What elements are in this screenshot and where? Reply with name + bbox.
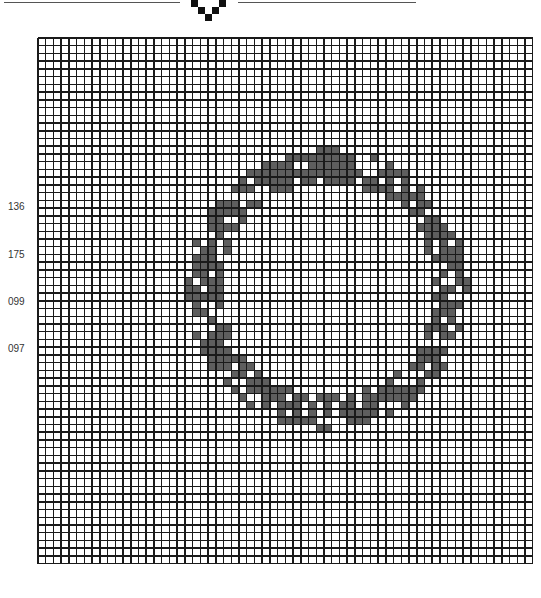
grid-line-horizontal — [38, 207, 533, 209]
grid-line-horizontal — [38, 393, 533, 395]
grid-line-horizontal — [38, 169, 533, 171]
grid-line-horizontal — [38, 107, 533, 109]
grid-line-horizontal — [38, 517, 533, 519]
grid-line-horizontal — [38, 547, 533, 549]
grid-line-horizontal — [38, 76, 533, 78]
grid-line-horizontal — [38, 509, 533, 511]
grid-line-horizontal — [38, 269, 533, 271]
grid-line-horizontal — [38, 470, 533, 472]
grid-line-horizontal — [38, 200, 533, 202]
grid-line-horizontal — [38, 370, 533, 372]
grid-line-horizontal — [38, 316, 533, 318]
grid-line-horizontal — [38, 462, 533, 464]
grid-line-horizontal — [38, 161, 533, 163]
grid-line-horizontal — [38, 145, 533, 147]
grid-line-horizontal — [38, 401, 533, 403]
grid-line-horizontal — [38, 501, 533, 503]
grid-line-horizontal — [38, 524, 533, 526]
grid-line-horizontal — [38, 122, 533, 124]
legend-code-097: 097 — [8, 343, 25, 354]
legend-code-099: 099 — [8, 296, 25, 307]
grid-line-horizontal — [38, 246, 533, 248]
grid-line-horizontal — [38, 91, 533, 93]
grid-line-horizontal — [38, 431, 533, 433]
grid-line-horizontal — [38, 37, 533, 39]
grid-line-horizontal — [38, 130, 533, 132]
grid-line-horizontal — [38, 292, 533, 294]
grid-line-horizontal — [38, 184, 533, 186]
grid-line-horizontal — [38, 377, 533, 379]
grid-line-horizontal — [38, 254, 533, 256]
grid-line-horizontal — [38, 238, 533, 240]
grid-line-horizontal — [38, 115, 533, 117]
grid-line-horizontal — [38, 486, 533, 488]
header-rule-left — [4, 2, 180, 3]
grid-line-horizontal — [38, 331, 533, 333]
grid-line-horizontal — [38, 532, 533, 534]
grid-line-horizontal — [38, 385, 533, 387]
grid-line-horizontal — [38, 153, 533, 155]
legend-code-136: 136 — [8, 201, 25, 212]
grid-line-horizontal — [38, 138, 533, 140]
grid-line-horizontal — [38, 493, 533, 495]
grid-line-horizontal — [38, 99, 533, 101]
grid-line-horizontal — [38, 455, 533, 457]
grid-line-horizontal — [38, 408, 533, 410]
grid-line-horizontal — [38, 416, 533, 418]
grid-line-horizontal — [38, 478, 533, 480]
grid-line-horizontal — [38, 354, 533, 356]
grid-line-horizontal — [38, 215, 533, 217]
grid-line-horizontal — [38, 261, 533, 263]
grid-line-horizontal — [38, 300, 533, 302]
grid-line-horizontal — [38, 84, 533, 86]
grid-line-horizontal — [38, 176, 533, 178]
grid-line-horizontal — [38, 563, 533, 565]
grid-line-horizontal — [38, 53, 533, 55]
legend-code-175: 175 — [8, 249, 25, 260]
grid-line-horizontal — [38, 277, 533, 279]
grid-line-horizontal — [38, 555, 533, 557]
grid-line-horizontal — [38, 439, 533, 441]
grid-line-horizontal — [38, 346, 533, 348]
grid-line-horizontal — [38, 68, 533, 70]
grid-line-horizontal — [38, 308, 533, 310]
grid-line-horizontal — [38, 339, 533, 341]
grid-line-horizontal — [38, 362, 533, 364]
header-rule-right — [238, 2, 416, 3]
grid-line-horizontal — [38, 540, 533, 542]
grid-line-horizontal — [38, 223, 533, 225]
stitch-chart-grid — [38, 38, 533, 564]
grid-line-horizontal — [38, 192, 533, 194]
grid-line-horizontal — [38, 424, 533, 426]
grid-line-horizontal — [38, 45, 533, 47]
grid-line-horizontal — [38, 447, 533, 449]
grid-line-horizontal — [38, 231, 533, 233]
grid-line-horizontal — [38, 60, 533, 62]
grid-line-horizontal — [38, 285, 533, 287]
grid-line-horizontal — [38, 323, 533, 325]
